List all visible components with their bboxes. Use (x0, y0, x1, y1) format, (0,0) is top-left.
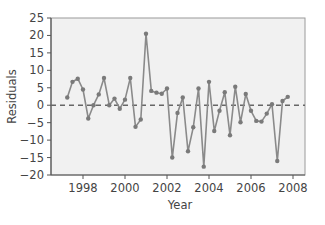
data-point (154, 90, 158, 94)
data-point (97, 92, 101, 96)
data-point (249, 109, 253, 113)
data-point (265, 111, 269, 115)
x-axis: 199820002002200420062008 (68, 175, 307, 195)
data-point (112, 96, 116, 100)
data-point (118, 107, 122, 111)
y-axis: 2520151050−5−10−15−20 (20, 11, 51, 182)
data-point (149, 89, 153, 93)
data-point (102, 76, 106, 80)
data-point (107, 103, 111, 107)
data-point (223, 90, 227, 94)
x-tick-label: 2006 (236, 181, 265, 195)
data-point (181, 95, 185, 99)
data-point (91, 103, 95, 107)
y-tick-label: −20 (20, 168, 44, 182)
data-point (207, 80, 211, 84)
y-tick-label: 15 (29, 46, 44, 60)
data-point (76, 77, 80, 81)
data-point (244, 92, 248, 96)
plot-area (51, 18, 305, 175)
x-axis-label: Year (167, 198, 193, 212)
y-tick-label: −5 (27, 116, 44, 130)
x-tick-label: 2004 (194, 181, 223, 195)
x-tick-label: 2008 (278, 181, 307, 195)
data-point (144, 32, 148, 36)
y-tick-label: −10 (20, 133, 44, 147)
x-tick-label: 1998 (68, 181, 97, 195)
data-point (238, 120, 242, 124)
data-point (175, 111, 179, 115)
y-axis-label: Residuals (5, 69, 19, 124)
data-point (217, 109, 221, 113)
data-point (86, 116, 90, 120)
data-point (270, 102, 274, 106)
data-point (133, 125, 137, 129)
y-tick-label: 10 (29, 63, 44, 77)
y-tick-label: −15 (20, 151, 44, 165)
data-point (65, 95, 69, 99)
data-point (160, 92, 164, 96)
data-point (186, 149, 190, 153)
data-point (280, 99, 284, 103)
data-point (139, 117, 143, 121)
data-point (275, 159, 279, 163)
data-point (212, 129, 216, 133)
data-point (70, 80, 74, 84)
data-point (202, 164, 206, 168)
data-point (123, 97, 127, 101)
y-tick-label: 25 (29, 11, 44, 25)
x-tick-label: 2002 (152, 181, 181, 195)
data-point (286, 95, 290, 99)
x-tick-label: 2000 (110, 181, 139, 195)
chart-svg: 2520151050−5−10−15−20 199820002002200420… (0, 0, 325, 225)
y-tick-label: 5 (37, 81, 44, 95)
data-point (233, 85, 237, 89)
data-point (196, 86, 200, 90)
data-point (128, 76, 132, 80)
y-tick-label: 20 (29, 28, 44, 42)
data-point (228, 133, 232, 137)
y-tick-label: 0 (37, 98, 44, 112)
residuals-chart: 2520151050−5−10−15−20 199820002002200420… (0, 0, 325, 225)
data-point (81, 87, 85, 91)
data-point (259, 119, 263, 123)
data-point (170, 155, 174, 159)
data-point (191, 125, 195, 129)
data-point (254, 119, 258, 123)
data-point (165, 86, 169, 90)
